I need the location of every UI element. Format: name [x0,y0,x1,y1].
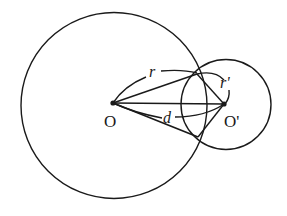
segment-o-o-prime [113,103,224,104]
label-r: r [149,63,156,80]
label-d: d [163,109,172,126]
point-o-dot [110,100,115,105]
point-o-prime-dot [221,101,226,106]
label-r-prime: r' [220,74,230,91]
segment-lower-intersection-o-prime [198,104,224,137]
label-o: O [104,112,116,131]
label-o-prime: O' [224,112,239,131]
intersecting-circles-figure: O O' r r' d [0,0,287,216]
diagram-canvas: O O' r r' d [0,0,287,216]
large-circle [21,13,207,199]
dimension-arc-r-prime-bottom [225,90,229,104]
dimension-arc-r-left [113,77,146,103]
dimension-arc-r-right [161,70,197,73]
